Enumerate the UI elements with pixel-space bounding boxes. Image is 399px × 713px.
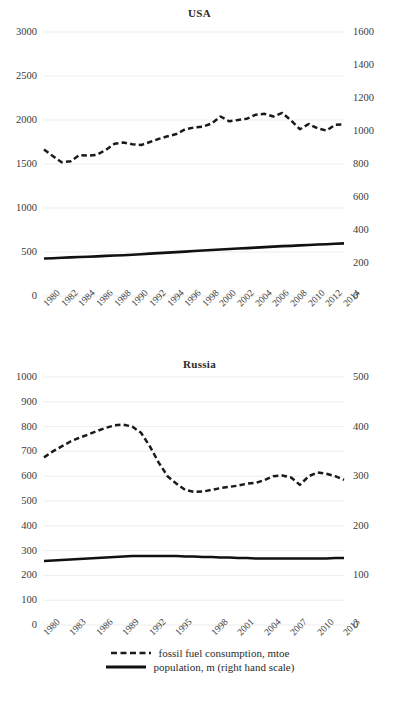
y-axis-right-tick: 200 [353, 258, 369, 269]
y-axis-left-tick: 100 [21, 595, 37, 606]
y-axis-left-tick: 500 [21, 496, 37, 507]
y-axis-left-tick: 200 [21, 570, 37, 581]
y-axis-right-tick: 1200 [353, 93, 374, 104]
x-axis-tick: 2014 [342, 289, 362, 309]
chart-panel-russia: Russia 010020030040050060070080090010000… [0, 355, 399, 655]
chart-title-russia: Russia [0, 358, 399, 370]
y-axis-right-tick: 300 [353, 471, 369, 482]
legend-item-fossil: fossil fuel consumption, mtoe [0, 647, 399, 659]
y-axis-left-tick: 1000 [16, 203, 37, 214]
y-axis-right-tick: 400 [353, 225, 369, 236]
plot-svg [44, 32, 344, 296]
y-axis-right-tick: 1600 [353, 27, 374, 38]
y-axis-left-tick: 600 [21, 471, 37, 482]
series-line-population [44, 556, 344, 561]
plot-area-russia: 0100200300400500600700800900100001002003… [44, 377, 344, 625]
y-axis-right-tick: 1000 [353, 126, 374, 137]
chart-title-usa: USA [0, 7, 399, 19]
dual-panel-chart-figure: USA 050010001500200025003000020040060080… [0, 0, 399, 713]
y-axis-right-tick: 1400 [353, 60, 374, 71]
dashed-line-icon [110, 649, 152, 657]
y-axis-left-tick: 400 [21, 521, 37, 532]
y-axis-right-tick: 500 [353, 372, 369, 383]
y-axis-left-tick: 900 [21, 397, 37, 408]
y-axis-right-tick: 400 [353, 421, 369, 432]
y-axis-left-tick: 800 [21, 421, 37, 432]
series-line-population [44, 243, 344, 258]
plot-area-usa: 0500100015002000250030000200400600800100… [44, 32, 344, 296]
y-axis-left-tick: 1000 [16, 372, 37, 383]
y-axis-right-tick: 200 [353, 521, 369, 532]
legend-label-fossil: fossil fuel consumption, mtoe [159, 647, 290, 659]
y-axis-left-tick: 2000 [16, 115, 37, 126]
chart-legend: fossil fuel consumption, mtoe population… [0, 645, 399, 675]
y-axis-left-tick: 2500 [16, 71, 37, 82]
y-axis-left-tick: 500 [21, 247, 37, 258]
y-axis-left-tick: 3000 [16, 27, 37, 38]
y-axis-right-tick: 800 [353, 159, 369, 170]
y-axis-left-tick: 700 [21, 446, 37, 457]
y-axis-left-tick: 1500 [16, 159, 37, 170]
y-axis-left-tick: 0 [32, 620, 37, 631]
legend-label-population: population, m (right hand scale) [154, 661, 295, 673]
y-axis-right-tick: 600 [353, 192, 369, 203]
legend-item-population: population, m (right hand scale) [0, 661, 399, 673]
solid-line-icon [105, 663, 147, 671]
y-axis-right-tick: 100 [353, 570, 369, 581]
series-line-fossil [44, 425, 344, 492]
y-axis-left-tick: 300 [21, 545, 37, 556]
x-axis-tick: 2013 [342, 618, 362, 638]
chart-panel-usa: USA 050010001500200025003000020040060080… [0, 0, 399, 352]
y-axis-left-tick: 0 [32, 291, 37, 302]
plot-svg [44, 377, 344, 625]
